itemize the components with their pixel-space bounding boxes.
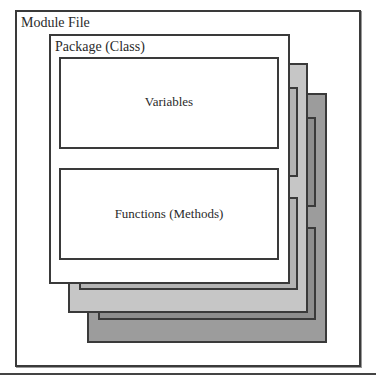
- functions-box: Functions (Methods): [59, 168, 279, 260]
- variables-label: Variables: [61, 94, 277, 110]
- page-rule: [0, 373, 376, 375]
- module-file-label: Module File: [21, 15, 90, 31]
- variables-box: Variables: [59, 57, 279, 149]
- functions-label: Functions (Methods): [61, 206, 277, 222]
- package-label: Package (Class): [55, 39, 145, 55]
